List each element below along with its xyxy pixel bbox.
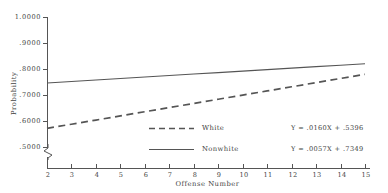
equation-nonwhite: Y = .0057X + .7349 bbox=[291, 145, 364, 153]
regression-line-chart: 1.0000 .9000 .8000 .7000 .6000 .5000 Pro… bbox=[0, 0, 388, 193]
legend-label-white: White bbox=[202, 124, 224, 132]
legend-nonwhite-swatch bbox=[149, 148, 194, 151]
legend-label-nonwhite: Nonwhite bbox=[202, 145, 239, 153]
plot-area bbox=[0, 0, 388, 193]
series-line-nonwhite bbox=[47, 64, 365, 83]
equation-white: Y = .0160X + .5396 bbox=[291, 124, 364, 132]
series-line-white bbox=[47, 74, 365, 128]
legend-white-swatch bbox=[149, 127, 194, 130]
